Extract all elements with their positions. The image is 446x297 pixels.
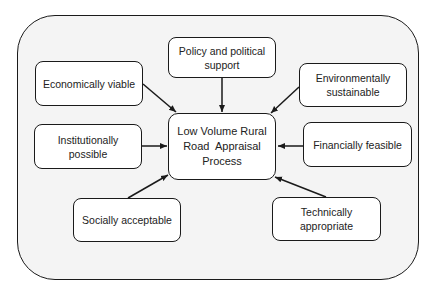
arrow-technical <box>275 177 326 197</box>
node-label: Institutionally possible <box>48 133 128 161</box>
arrow-environment <box>271 87 299 113</box>
node-center: Low Volume Rural Road Appraisal Process <box>168 113 276 180</box>
node-environment: Environmentally sustainable <box>299 63 407 107</box>
node-label: Environmentally sustainable <box>313 71 393 99</box>
center-label: Low Volume Rural Road Appraisal Process <box>174 124 270 169</box>
node-technical: Technically appropriate <box>272 197 381 241</box>
node-label: Technically appropriate <box>292 205 362 233</box>
node-policy: Policy and political support <box>168 37 276 78</box>
node-label: Financially feasible <box>313 138 402 152</box>
node-label: Socially acceptable <box>82 213 172 227</box>
arrow-economic <box>143 84 176 112</box>
node-economic: Economically viable <box>35 61 143 106</box>
node-financial: Financially feasible <box>303 122 412 167</box>
node-social: Socially acceptable <box>73 198 181 242</box>
node-label: Policy and political support <box>173 44 271 72</box>
node-label: Economically viable <box>43 77 135 91</box>
node-institutional: Institutionally possible <box>34 124 142 169</box>
arrow-social <box>128 175 168 198</box>
